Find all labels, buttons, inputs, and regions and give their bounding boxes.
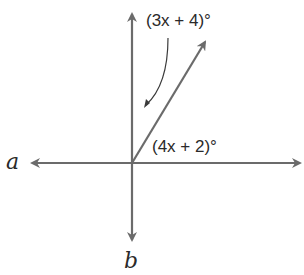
pointer-arrowhead [144, 99, 150, 108]
line-a-label: a [6, 149, 19, 174]
pointer-arrow [146, 38, 168, 105]
angle-label-lower: (4x + 2)° [152, 137, 217, 156]
diagram-canvas: (3x + 4)° (4x + 2)° a b [0, 0, 304, 275]
line-b-label: b [124, 248, 138, 273]
angle-diagram: (3x + 4)° (4x + 2)° a b [0, 0, 304, 275]
angle-label-upper: (3x + 4)° [146, 11, 211, 30]
